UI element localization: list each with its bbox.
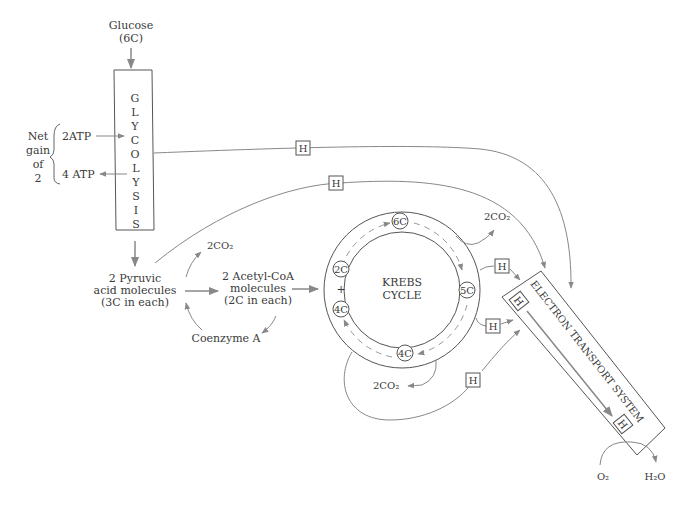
krebs-label-2: CYCLE — [382, 289, 421, 302]
pyruvic-label-3: (3C in each) — [101, 296, 169, 309]
svg-text:Y: Y — [130, 120, 139, 133]
coenzyme-label: Coenzyme A — [191, 332, 261, 345]
atp-output-label: 4 ATP — [62, 168, 95, 181]
svg-text:4C: 4C — [334, 304, 348, 315]
acetyl-to-coenzyme-arrow — [262, 316, 276, 333]
cycle-arrow-6c-5c — [414, 223, 462, 270]
krebs-h1-path-a — [480, 266, 494, 270]
svg-text:5C: 5C — [460, 285, 474, 296]
node-6c: 6C — [392, 213, 408, 229]
pyruvate-h-path — [155, 181, 545, 268]
brace — [50, 124, 60, 184]
oxygen-label: O₂ — [597, 471, 609, 482]
svg-text:H: H — [489, 321, 498, 332]
svg-text:Y: Y — [131, 176, 140, 189]
h-carrier-glycolysis: H — [296, 141, 310, 155]
glucose-label: Glucose — [109, 19, 153, 32]
krebs-h2-path-a — [476, 318, 486, 326]
krebs-h3-path-a — [344, 352, 470, 420]
krebs-co2-top-arrow — [456, 230, 494, 244]
svg-text:C: C — [131, 134, 139, 147]
pyruvate-co2-label: 2CO₂ — [207, 240, 233, 251]
glycolysis-label: G L Y C O L Y S I S — [130, 92, 140, 231]
svg-text:H: H — [469, 375, 478, 386]
plus-sign: + — [336, 283, 345, 296]
h-carrier-krebs-3: H — [466, 373, 480, 387]
h-carrier-krebs-2: H — [486, 319, 500, 333]
h-carrier-pyruvate: H — [329, 176, 343, 190]
svg-text:H: H — [299, 143, 308, 154]
krebs-co2-top-label: 2CO₂ — [484, 211, 510, 222]
svg-text:4C: 4C — [398, 348, 412, 359]
atp-input-label: 2ATP — [62, 130, 92, 143]
node-2c: 2C — [333, 261, 349, 277]
svg-text:Net: Net — [28, 130, 49, 143]
node-4c-left: 4C — [333, 301, 349, 317]
cycle-arrow-5c-4c — [418, 305, 467, 354]
krebs-co2-bottom-label: 2CO₂ — [373, 380, 399, 391]
ets-label: ELECTRON TRANSPORT SYSTEM — [528, 278, 646, 424]
svg-text:2: 2 — [35, 172, 42, 185]
svg-text:O: O — [130, 148, 139, 161]
node-4c-bottom: 4C — [397, 345, 413, 361]
svg-text:H: H — [498, 261, 507, 272]
svg-text:L: L — [132, 162, 140, 175]
net-gain-label: Net gain of 2 — [26, 130, 50, 185]
svg-text:H: H — [332, 178, 341, 189]
svg-text:S: S — [132, 218, 140, 231]
krebs-h1-path-b — [510, 269, 520, 280]
krebs-label-1: KREBS — [382, 276, 422, 289]
cycle-arrow-4c-4c — [344, 320, 392, 357]
svg-text:6C: 6C — [393, 216, 407, 227]
krebs-co2-bottom-arrow — [408, 360, 436, 386]
svg-text:I: I — [134, 204, 138, 217]
water-label: H₂O — [645, 471, 666, 482]
svg-text:S: S — [132, 190, 140, 203]
h-carrier-ets-top: H — [509, 291, 529, 311]
node-5c: 5C — [459, 282, 475, 298]
glucose-carbon-label: (6C) — [119, 32, 143, 45]
svg-text:L: L — [131, 106, 139, 119]
svg-text:gain: gain — [26, 144, 50, 157]
svg-text:of: of — [33, 158, 45, 171]
h-carrier-krebs-1: H — [495, 259, 509, 273]
krebs-h2-path-b — [501, 320, 513, 324]
svg-text:G: G — [131, 92, 140, 105]
krebs-h3-path-b — [482, 330, 520, 371]
coenzyme-to-pyruvic-arrow — [186, 303, 202, 330]
cellular-respiration-diagram: Glucose (6C) G L Y C O L Y S I S Net gai… — [0, 0, 690, 512]
acetyl-label-3: (2C in each) — [224, 294, 292, 307]
pyruvate-co2-arrow — [186, 252, 201, 277]
svg-text:2C: 2C — [334, 264, 348, 275]
